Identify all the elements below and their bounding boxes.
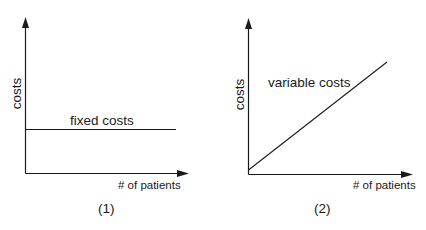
diagram-2-axes bbox=[245, 18, 413, 178]
diagram-1-x-axis-label: # of patients bbox=[118, 179, 181, 191]
diagram-1-line-label: fixed costs bbox=[70, 113, 134, 128]
diagram-1-axes bbox=[22, 17, 189, 177]
y-axis-arrow-icon bbox=[245, 18, 252, 29]
diagram-1-caption: (1) bbox=[98, 201, 115, 216]
diagram-2-line-label: variable costs bbox=[268, 75, 351, 90]
diagram-1-y-axis-label: costs bbox=[9, 75, 24, 113]
diagram-2-y-axis-label: costs bbox=[232, 76, 247, 114]
x-axis-arrow-icon bbox=[401, 171, 413, 178]
y-axis-arrow-icon bbox=[22, 17, 29, 28]
diagram-2-x-axis-label: # of patients bbox=[353, 179, 416, 191]
diagram-2-caption: (2) bbox=[314, 201, 331, 216]
x-axis-arrow-icon bbox=[177, 170, 189, 177]
diagram-canvas bbox=[0, 0, 426, 230]
